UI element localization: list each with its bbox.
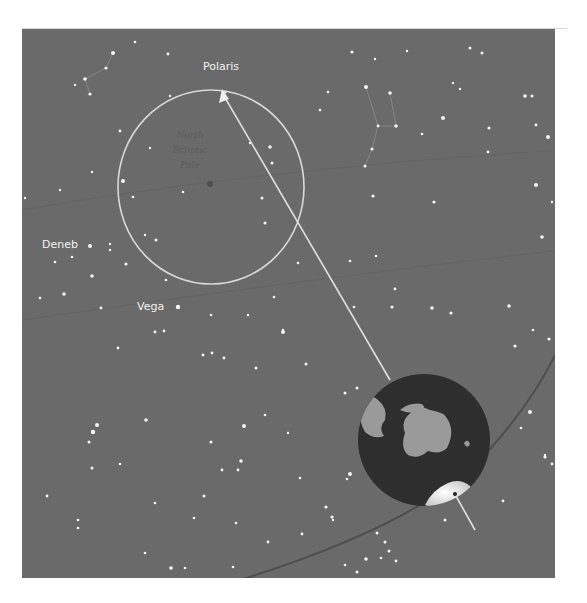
earth-globe [358, 374, 490, 510]
axis-arrow-line [224, 96, 390, 380]
faint-arc [22, 250, 560, 320]
south-pole-point [453, 492, 457, 496]
star-label-vega: Vega [137, 300, 164, 313]
sky-diagram [0, 0, 587, 603]
stars [24, 41, 554, 574]
ecliptic-pole-label-line1: North [165, 128, 215, 143]
star-label-deneb: Deneb [42, 238, 78, 251]
precession-circle [118, 90, 304, 284]
faint-arc [22, 150, 560, 210]
ecliptic-pole-marker [207, 181, 213, 187]
ecliptic-pole-label-line3: Pole [165, 158, 215, 173]
australia-landmass [403, 407, 451, 456]
constellation-lines [85, 53, 396, 166]
ecliptic-pole-label: North Ecliptic Pole [165, 128, 215, 173]
ecliptic-pole-label-line2: Ecliptic [165, 143, 215, 158]
star-label-polaris: Polaris [203, 60, 239, 73]
axis-south-stub [456, 496, 475, 530]
